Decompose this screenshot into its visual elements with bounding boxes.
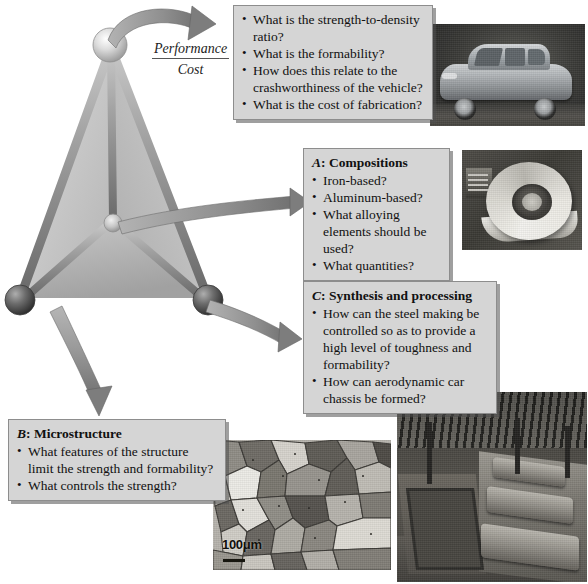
microstructure-letter: B [17, 426, 26, 441]
list-item: What is the strength-to-density ratio? [242, 11, 424, 45]
fraction-denominator: Cost [152, 61, 229, 78]
assembly-line-photograph [397, 392, 587, 582]
figure-canvas: Performance Cost [0, 0, 588, 584]
steel-coil-photograph [462, 150, 582, 250]
micrograph-scale-bar [223, 559, 245, 562]
compositions-letter: A [312, 155, 321, 170]
grain-micrograph: 100μm [213, 440, 391, 570]
performance-bullet-list: What is the strength-to-density ratio? W… [242, 11, 424, 113]
microstructure-title: B: Microstructure [17, 425, 217, 442]
microstructure-title-rest: : Microstructure [26, 426, 122, 441]
list-item: What alloying elements should be used? [312, 206, 441, 257]
microstructure-callout: B: Microstructure What features of the s… [8, 419, 226, 501]
synthesis-title-rest: : Synthesis and processing [321, 288, 472, 303]
compositions-title: A: Compositions [312, 154, 441, 171]
performance-cost-callout: What is the strength-to-density ratio? W… [233, 5, 433, 120]
tetra-node-center [104, 214, 122, 232]
list-item: What controls the strength? [17, 477, 217, 494]
tetra-node-right [193, 285, 223, 315]
list-item: Iron-based? [312, 172, 441, 189]
list-item: Aluminum-based? [312, 189, 441, 206]
list-item: How can the steel making be controlled s… [312, 305, 488, 373]
list-item: What quantities? [312, 257, 441, 274]
fraction-numerator: Performance [152, 40, 229, 57]
compositions-callout: A: Compositions Iron-based? Aluminum-bas… [303, 148, 450, 281]
performance-over-cost-label: Performance Cost [152, 40, 229, 78]
synthesis-callout: C: Synthesis and processing How can the … [303, 281, 497, 414]
compositions-title-rest: : Compositions [321, 155, 408, 170]
tetra-node-left [5, 285, 35, 315]
compositions-bullet-list: Iron-based? Aluminum-based? What alloyin… [312, 172, 441, 274]
synthesis-letter: C [312, 288, 321, 303]
micrograph-scale-label: 100μm [222, 537, 262, 552]
fraction-bar [152, 58, 229, 59]
tetra-node-apex [93, 28, 127, 62]
list-item: How can aerodynamic car chassis be forme… [312, 373, 488, 407]
list-item: How does this relate to the crashworthin… [242, 62, 424, 96]
list-item: What is the cost of fabrication? [242, 96, 424, 113]
list-item: What features of the structure limit the… [17, 443, 217, 477]
microstructure-bullet-list: What features of the structure limit the… [17, 443, 217, 494]
list-item: What is the formability? [242, 45, 424, 62]
tetra-edge-apex-center [111, 50, 113, 220]
synthesis-bullet-list: How can the steel making be controlled s… [312, 305, 488, 407]
car-photograph [430, 24, 585, 126]
synthesis-title: C: Synthesis and processing [312, 287, 488, 304]
